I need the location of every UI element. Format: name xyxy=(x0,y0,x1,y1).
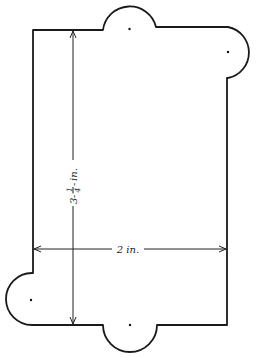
width-dimension: 2 in. xyxy=(34,244,226,255)
center-mark-bottom xyxy=(129,324,131,326)
svg-text:in.: in. xyxy=(68,168,79,181)
center-mark-top xyxy=(128,28,130,30)
svg-text:-: - xyxy=(68,194,79,198)
width-label: 2 in. xyxy=(116,244,139,255)
shape-outline xyxy=(6,6,249,352)
svg-text:-: - xyxy=(68,182,79,186)
height-dimension: 3 - 1 4 - in. xyxy=(65,31,83,324)
tab-template-diagram: 3 - 1 4 - in. 2 in. xyxy=(0,0,258,357)
svg-text:4: 4 xyxy=(73,188,82,194)
center-mark-bottom-left xyxy=(30,299,32,301)
height-label: 3 - 1 4 - in. xyxy=(65,168,83,204)
center-mark-top-right xyxy=(227,51,229,53)
